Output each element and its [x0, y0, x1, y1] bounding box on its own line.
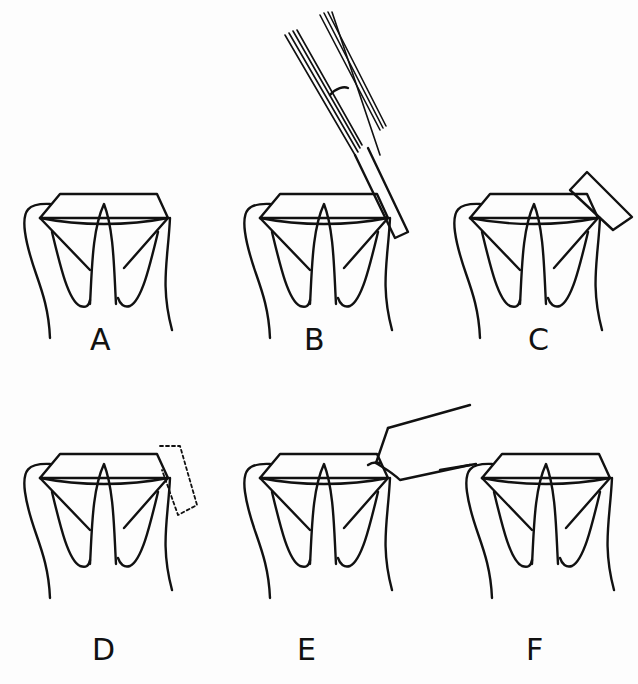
panel-d — [24, 454, 172, 598]
panel-f — [466, 454, 614, 598]
forceps-tool-icon — [285, 12, 408, 238]
panel-e — [244, 454, 392, 598]
panel-label-d: D — [92, 632, 115, 667]
panel-c — [454, 194, 602, 338]
panel-label-b: B — [304, 322, 325, 357]
panel-label-e: E — [297, 632, 316, 667]
panel-label-c: C — [528, 322, 549, 357]
diagram-figure: A B C D E F — [0, 0, 638, 684]
panel-b — [244, 194, 392, 338]
panel-label-f: F — [526, 632, 543, 667]
panel-a — [24, 194, 172, 338]
panel-label-a: A — [90, 322, 111, 357]
dotted-block-icon — [160, 446, 197, 515]
